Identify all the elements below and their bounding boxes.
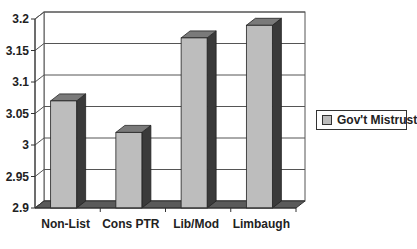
- bar-side: [77, 94, 86, 208]
- bar-front: [51, 101, 77, 208]
- y-axis: 2.92.9533.053.13.153.2: [6, 12, 35, 215]
- y-tick-label: 3.2: [12, 12, 29, 26]
- y-tick-label: 3.1: [12, 75, 29, 89]
- y-tick-label: 2.95: [6, 170, 30, 184]
- y-tick-label: 3.05: [6, 107, 30, 121]
- bar-side: [207, 31, 216, 208]
- bar-limbaugh: [246, 18, 281, 208]
- y-tick-label: 2.9: [12, 201, 29, 215]
- legend-label: Gov't Mistrust: [337, 113, 417, 127]
- bar-cons-ptr: [116, 125, 151, 208]
- legend: Gov't Mistrust: [316, 110, 407, 130]
- y-tick-label: 3.15: [6, 44, 30, 58]
- x-tick-label: Limbaugh: [233, 217, 290, 231]
- bar-lib-mod: [181, 31, 216, 208]
- bar-non-list: [51, 94, 86, 208]
- legend-swatch: [322, 115, 332, 125]
- x-tick-label: Lib/Mod: [173, 217, 219, 231]
- bar-side: [142, 125, 151, 208]
- x-tick-label: Cons PTR: [102, 217, 160, 231]
- bar-front: [246, 25, 272, 208]
- x-tick-label: Non-List: [41, 217, 90, 231]
- bar-front: [181, 38, 207, 208]
- x-axis: Non-ListCons PTRLib/ModLimbaugh: [35, 208, 296, 231]
- bar-side: [272, 18, 281, 208]
- y-tick-label: 3: [22, 138, 29, 152]
- bar-front: [116, 132, 142, 208]
